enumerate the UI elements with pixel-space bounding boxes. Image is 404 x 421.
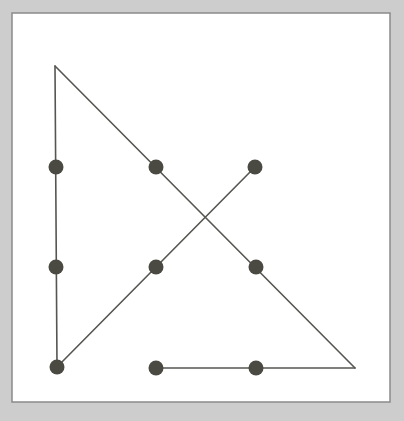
dot-bottom-center	[149, 361, 164, 376]
dot-top-left	[49, 160, 64, 175]
figure-canvas	[0, 0, 404, 421]
dot-middle-center	[149, 260, 164, 275]
dot-top-center	[149, 160, 164, 175]
dot-bottom-right	[249, 361, 264, 376]
panel-frame	[12, 13, 390, 402]
dot-middle-right	[249, 260, 264, 275]
dot-bottom-left	[50, 360, 65, 375]
dot-top-right	[248, 160, 263, 175]
geometric-figure-svg	[0, 0, 404, 421]
dot-middle-left	[49, 260, 64, 275]
